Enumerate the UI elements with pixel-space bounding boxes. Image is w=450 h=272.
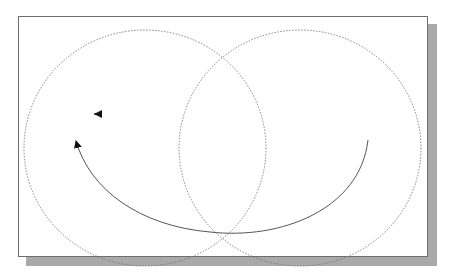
realm-left-ellipse	[24, 30, 266, 266]
feedback-arrow	[76, 140, 368, 233]
communication-model-diagram	[0, 0, 450, 272]
realm-right-ellipse	[179, 30, 421, 266]
